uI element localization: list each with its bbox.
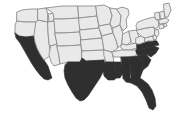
state-WY[interactable] — [54, 18, 80, 33]
us-map-svg — [0, 0, 172, 117]
state-TX[interactable] — [64, 58, 105, 101]
state-OK[interactable] — [82, 50, 106, 61]
state-OR[interactable] — [15, 21, 37, 37]
state-KS[interactable] — [81, 38, 104, 51]
us-map-container — [0, 0, 172, 117]
state-KY[interactable] — [121, 43, 137, 50]
state-FL[interactable] — [123, 78, 156, 110]
state-TN[interactable] — [112, 50, 137, 57]
state-CO[interactable] — [55, 32, 81, 46]
state-CT[interactable] — [159, 24, 164, 29]
state-NM[interactable] — [57, 45, 82, 64]
state-NJ[interactable] — [155, 29, 159, 37]
state-VT[interactable] — [155, 12, 160, 20]
state-MA[interactable] — [159, 18, 169, 24]
state-WA[interactable] — [17, 9, 38, 22]
state-ME[interactable] — [164, 3, 171, 17]
